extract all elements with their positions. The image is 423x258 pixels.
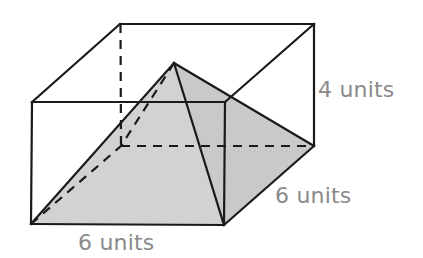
prism-pyramid-diagram: 4 units 6 units 6 units <box>0 0 423 258</box>
edge-front-bottom <box>31 224 224 225</box>
label-height: 4 units <box>318 77 394 102</box>
edge-front-left-vertical <box>31 102 32 224</box>
label-depth: 6 units <box>275 183 351 208</box>
label-width: 6 units <box>78 230 154 255</box>
edge-front-right-vertical <box>224 102 225 225</box>
